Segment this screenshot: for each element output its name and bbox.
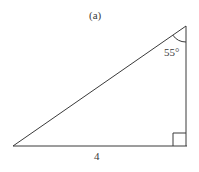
hypotenuse bbox=[13, 26, 186, 146]
angle-arc bbox=[173, 35, 186, 42]
figure-label: (a) bbox=[89, 10, 101, 21]
right-angle-marker bbox=[173, 133, 186, 146]
triangle-drawing bbox=[0, 0, 199, 172]
right-triangle-figure: (a) 55° 4 bbox=[0, 0, 199, 172]
angle-label: 55° bbox=[164, 47, 179, 58]
side-length-label: 4 bbox=[94, 151, 100, 162]
